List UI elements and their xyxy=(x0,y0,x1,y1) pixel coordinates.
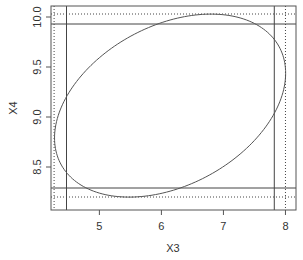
confidence-ellipse xyxy=(55,14,286,197)
y-tick-label-10: 10.0 xyxy=(31,6,43,27)
ellipse-chart: 5678 8.59.09.510.0 X3 X4 xyxy=(0,0,303,260)
ellipse-layer xyxy=(55,14,286,197)
x-tick-label-8: 8 xyxy=(282,220,288,232)
y-axis: 8.59.09.510.0 xyxy=(31,6,51,174)
x-tick-label-5: 5 xyxy=(96,220,102,232)
y-tick-label-8.5: 8.5 xyxy=(31,159,43,174)
x-axis-label: X3 xyxy=(166,242,179,254)
reference-lines xyxy=(51,6,296,210)
x-axis: 5678 xyxy=(96,210,288,232)
y-tick-label-9.5: 9.5 xyxy=(31,59,43,74)
plot-frame xyxy=(51,6,296,210)
x-tick-label-6: 6 xyxy=(158,220,164,232)
y-axis-label: X4 xyxy=(7,101,19,114)
x-tick-label-7: 7 xyxy=(220,220,226,232)
y-tick-label-9: 9.0 xyxy=(31,109,43,124)
